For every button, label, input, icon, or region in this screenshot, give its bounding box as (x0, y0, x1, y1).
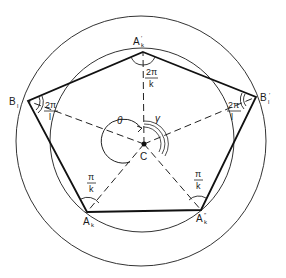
svg-text:′: ′ (141, 35, 143, 41)
angle-label-bottom-left: π k (87, 172, 96, 194)
svg-text:k: k (204, 219, 208, 225)
gamma-label: γ (155, 113, 161, 124)
svg-text:k: k (91, 222, 95, 228)
theta-label: θ (117, 115, 123, 126)
svg-text:A: A (196, 213, 203, 224)
angle-label-bottom-right: π k (194, 169, 203, 191)
svg-text:l: l (49, 112, 51, 122)
svg-text:A: A (133, 36, 140, 47)
svg-text:″: ″ (204, 212, 207, 218)
svg-text:2π: 2π (228, 100, 239, 110)
vertex-label-b-l: B l (9, 96, 18, 109)
angle-label-right: 2π l (227, 100, 241, 122)
svg-text:B: B (9, 96, 16, 107)
polygon-circles-diagram: A k ′ B l ′ A k ″ A k B l C θ γ 2π k 2π … (0, 0, 286, 278)
polygon-edges (28, 52, 256, 212)
svg-text:π: π (195, 169, 201, 179)
dashed-radii (28, 52, 256, 212)
center-point (142, 142, 147, 147)
inner-circle (50, 48, 234, 232)
svg-text:k: k (141, 42, 145, 48)
svg-text:π: π (88, 172, 94, 182)
angle-label-left: 2π l (44, 100, 58, 122)
center-label: C (140, 151, 147, 162)
svg-text:2π: 2π (146, 67, 157, 77)
vertex-label-a-k-double-prime: A k ″ (196, 212, 208, 225)
angle-label-top: 2π k (145, 67, 158, 89)
svg-text:l: l (231, 112, 233, 122)
vertex-label-b-l-prime: B l ′ (260, 92, 271, 105)
svg-text:A: A (83, 216, 90, 227)
svg-text:k: k (196, 181, 201, 191)
svg-text:B: B (260, 92, 267, 103)
vertex-label-a-k-prime: A k ′ (133, 35, 145, 48)
svg-text:2π: 2π (45, 100, 56, 110)
svg-text:l: l (17, 103, 18, 109)
svg-text:k: k (89, 184, 94, 194)
svg-text:l: l (268, 99, 269, 105)
svg-text:′: ′ (269, 92, 271, 98)
svg-text:k: k (149, 79, 154, 89)
